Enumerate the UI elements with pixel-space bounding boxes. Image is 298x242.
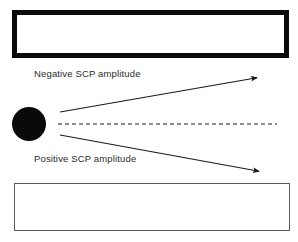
bottom-electrode-bar <box>14 183 290 231</box>
negative-amplitude-arrow <box>60 78 257 112</box>
positive-amplitude-label: Positive SCP amplitude <box>34 153 136 164</box>
scp-amplitude-diagram: Negative SCP amplitude Positive SCP ampl… <box>0 0 298 242</box>
